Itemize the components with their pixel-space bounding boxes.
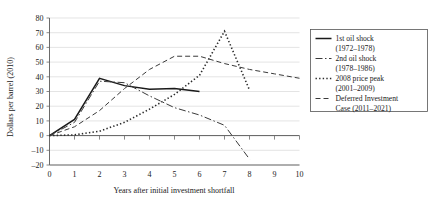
series-line-1	[50, 81, 250, 159]
legend-label-1-line2: (1978–1986)	[336, 64, 376, 73]
legend-label-2-line2: (2001–2009)	[336, 84, 376, 93]
legend-label-0-line1: 1st oil shock	[336, 34, 375, 43]
y-tick-label: 30	[36, 87, 44, 96]
x-tick-label: 8	[248, 170, 252, 179]
x-tick-label: 0	[48, 170, 52, 179]
y-tick-label: 50	[36, 58, 44, 67]
x-tick-labels: 012345678910	[48, 170, 304, 179]
y-tick-label: 80	[36, 14, 44, 23]
series-line-2	[50, 31, 250, 135]
line-chart: –20–1001020304050607080 012345678910 Dol…	[0, 0, 433, 202]
y-tick-label: 20	[36, 102, 44, 111]
y-axis-title: Dollars per barrel (2010)	[6, 57, 15, 137]
series-line-3	[50, 56, 300, 135]
x-tick-label: 9	[273, 170, 277, 179]
x-axis-title: Years after initial investment shortfall	[114, 186, 236, 195]
y-tick-label: 0	[40, 131, 44, 140]
y-axis	[47, 18, 50, 165]
legend: 1st oil shock(1972–1978)2nd oil shock(19…	[311, 30, 428, 113]
legend-label-3-line1: Deferred Investment	[336, 94, 400, 103]
y-tick-label: –10	[31, 146, 44, 155]
x-tick-label: 7	[223, 170, 227, 179]
x-tick-label: 10	[296, 170, 304, 179]
x-tick-label: 1	[73, 170, 77, 179]
x-tick-label: 2	[98, 170, 102, 179]
series-line-0	[50, 78, 200, 135]
legend-label-1-line1: 2nd oil shock	[336, 54, 377, 63]
y-tick-label: 70	[36, 29, 44, 38]
x-tick-label: 6	[198, 170, 202, 179]
y-tick-labels: –20–1001020304050607080	[31, 14, 44, 170]
x-tick-label: 3	[123, 170, 127, 179]
gridlines	[50, 18, 300, 165]
y-tick-label: 10	[36, 117, 44, 126]
legend-label-3-line2: Case (2011–2021)	[336, 104, 392, 113]
data-series-group	[50, 31, 300, 159]
chart-figure: –20–1001020304050607080 012345678910 Dol…	[0, 0, 433, 202]
y-tick-label: –20	[31, 161, 44, 170]
y-tick-label: 60	[36, 43, 44, 52]
y-tick-label: 40	[36, 73, 44, 82]
x-tick-label: 5	[173, 170, 177, 179]
x-tick-label: 4	[148, 170, 152, 179]
legend-label-0-line2: (1972–1978)	[336, 44, 376, 53]
legend-label-2-line1: 2008 price peak	[336, 74, 385, 83]
